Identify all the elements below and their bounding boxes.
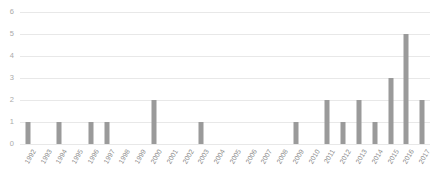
x-tick-slot: 2015 (383, 146, 399, 184)
bar[interactable] (372, 122, 377, 144)
bar-slot (414, 12, 430, 144)
x-tick-slot: 2013 (351, 146, 367, 184)
bar-slot (241, 12, 257, 144)
x-tick-slot: 1996 (83, 146, 99, 184)
y-tick-label: 4 (2, 52, 14, 60)
x-tick-slot: 2016 (398, 146, 414, 184)
bar-slot (99, 12, 115, 144)
bar-slot (130, 12, 146, 144)
x-tick-slot: 1993 (36, 146, 52, 184)
bar[interactable] (325, 100, 330, 144)
bar[interactable] (199, 122, 204, 144)
x-tick-slot: 1999 (130, 146, 146, 184)
bar-slot (320, 12, 336, 144)
y-tick-label: 1 (2, 118, 14, 126)
x-tick-label: 2017 (417, 148, 431, 165)
bar[interactable] (25, 122, 30, 144)
bar-slot (367, 12, 383, 144)
x-tick-slot: 2011 (320, 146, 336, 184)
bar[interactable] (104, 122, 109, 144)
x-tick-slot: 2004 (209, 146, 225, 184)
x-tick-slot: 1997 (99, 146, 115, 184)
bar[interactable] (341, 122, 346, 144)
y-tick-label: 0 (2, 140, 14, 148)
x-tick-slot: 2009 (288, 146, 304, 184)
bar[interactable] (404, 34, 409, 144)
x-tick-slot: 2006 (241, 146, 257, 184)
x-tick-slot: 1995 (67, 146, 83, 184)
x-tick-slot: 2003 (193, 146, 209, 184)
bar[interactable] (357, 100, 362, 144)
bar-slot (52, 12, 68, 144)
bar[interactable] (57, 122, 62, 144)
x-tick-slot: 2012 (335, 146, 351, 184)
x-tick-slot: 2005 (225, 146, 241, 184)
bar-slot (178, 12, 194, 144)
x-tick-slot: 2008 (272, 146, 288, 184)
bar-slot (288, 12, 304, 144)
bar-slot (20, 12, 36, 144)
x-tick-slot: 1998 (115, 146, 131, 184)
bar-slot (225, 12, 241, 144)
x-tick-slot: 2017 (414, 146, 430, 184)
bar-slot (304, 12, 320, 144)
bar-slot (83, 12, 99, 144)
x-tick-slot: 2007 (257, 146, 273, 184)
bars-layer (20, 12, 430, 144)
bar[interactable] (293, 122, 298, 144)
bar-slot (115, 12, 131, 144)
x-tick-slot: 1992 (20, 146, 36, 184)
x-tick-slot: 2002 (178, 146, 194, 184)
bar-slot (335, 12, 351, 144)
bar-slot (36, 12, 52, 144)
bar[interactable] (388, 78, 393, 144)
bar-chart-figure: 0123456 19921993199419951996199719981999… (0, 0, 436, 184)
x-tick-slot: 2014 (367, 146, 383, 184)
bar-slot (398, 12, 414, 144)
gridline (20, 144, 430, 145)
x-tick-slot: 2001 (162, 146, 178, 184)
x-tick-slot: 2000 (146, 146, 162, 184)
y-tick-label: 6 (2, 8, 14, 16)
bar-slot (146, 12, 162, 144)
bar-slot (257, 12, 273, 144)
y-tick-label: 3 (2, 74, 14, 82)
bar[interactable] (152, 100, 157, 144)
bar-slot (162, 12, 178, 144)
bar-slot (272, 12, 288, 144)
x-tick-slot: 1994 (52, 146, 68, 184)
bar[interactable] (420, 100, 425, 144)
x-tick-slot: 2010 (304, 146, 320, 184)
x-axis: 1992199319941995199619971998199920002001… (20, 146, 430, 184)
bar-slot (383, 12, 399, 144)
bar-slot (351, 12, 367, 144)
bar-slot (67, 12, 83, 144)
bar-slot (193, 12, 209, 144)
y-tick-label: 5 (2, 30, 14, 38)
bar-slot (209, 12, 225, 144)
bar[interactable] (88, 122, 93, 144)
y-tick-label: 2 (2, 96, 14, 104)
